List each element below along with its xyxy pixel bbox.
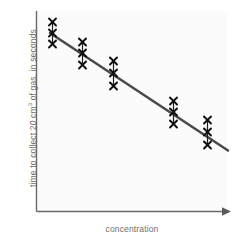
plot-background	[36, 11, 227, 211]
y-axis-label-before: time to collect 20 cm	[28, 106, 38, 187]
chart-container: time to collect 20 cm3 of gas, in second…	[0, 0, 244, 243]
y-axis-label-superscript: 3	[27, 103, 33, 107]
y-axis-label: time to collect 20 cm3 of gas, in second…	[28, 13, 38, 203]
x-axis-label: concentration	[36, 224, 228, 234]
y-axis-label-after: of gas, in seconds	[28, 29, 38, 103]
